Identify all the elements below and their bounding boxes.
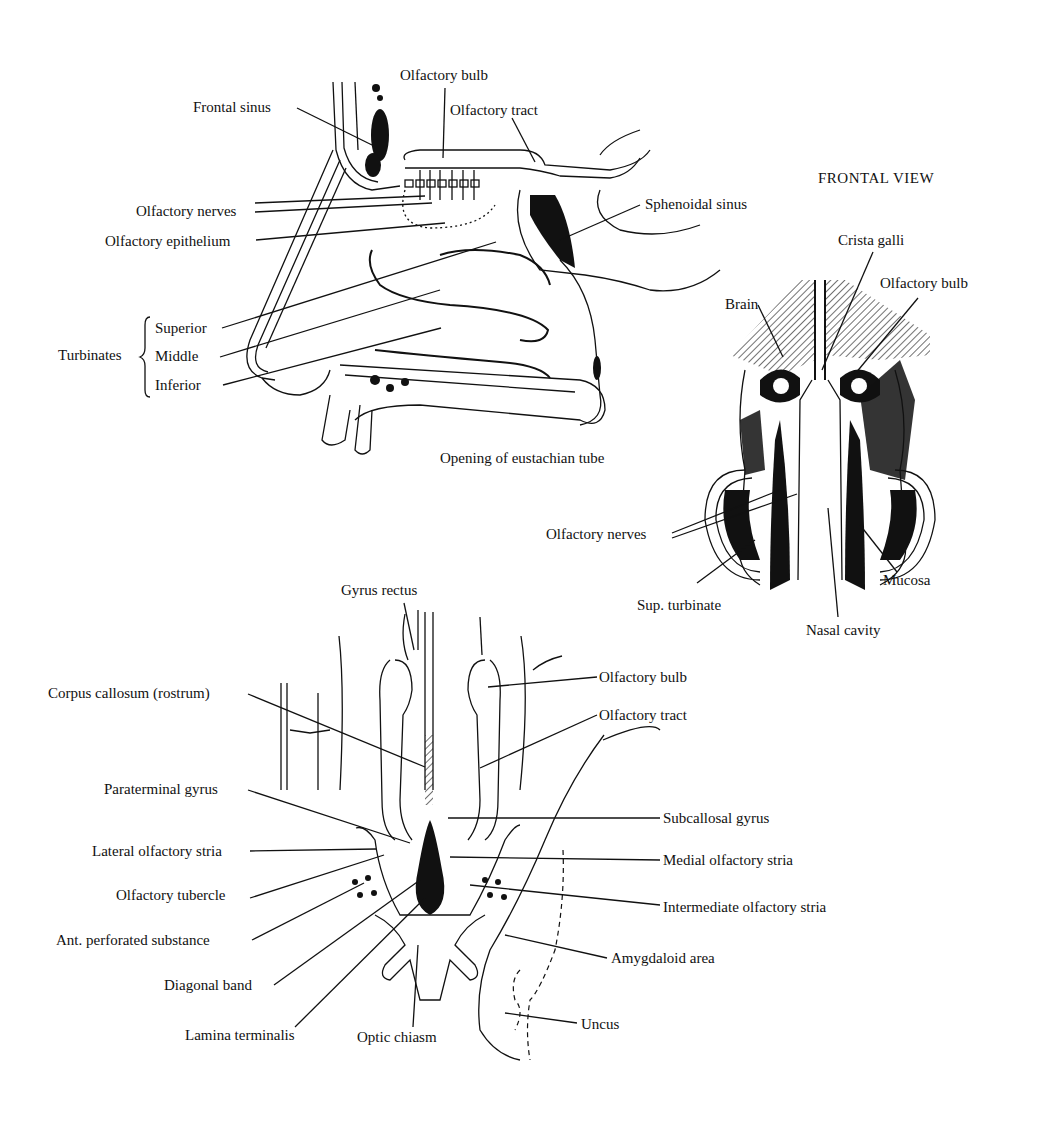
label-mucosa: Mucosa [883,573,931,588]
label-superior-turbinate: Superior [155,321,207,336]
label-ant-perforated-substance: Ant. perforated substance [56,933,210,948]
frontal-nasal-drawing [705,280,935,590]
label-sup-turbinate: Sup. turbinate [637,598,721,613]
label-nasal-cavity: Nasal cavity [806,623,881,638]
label-amygdaloid-area: Amygdaloid area [611,951,715,966]
label-lateral-olfactory-stria: Lateral olfactory stria [92,844,222,859]
label-frontal-sinus: Frontal sinus [193,100,271,115]
label-uncus: Uncus [581,1017,619,1032]
label-olfactory-tract: Olfactory tract [450,103,538,118]
label-paraterminal-gyrus: Paraterminal gyrus [104,782,218,797]
label-lamina-terminalis: Lamina terminalis [185,1028,295,1043]
label-brain: Brain [725,297,758,312]
label-turbinates: Turbinates [58,348,122,363]
sagittal-nasal-drawing [247,82,720,454]
label-frontal-olfactory-bulb: Olfactory bulb [880,276,968,291]
label-medial-olfactory-stria: Medial olfactory stria [663,853,793,868]
label-sphenoidal-sinus: Sphenoidal sinus [645,197,747,212]
label-corpus-callosum-rostrum: Corpus callosum (rostrum) [48,686,210,701]
label-olfactory-bulb: Olfactory bulb [400,68,488,83]
label-diagonal-band: Diagonal band [164,978,252,993]
label-crista-galli: Crista galli [838,233,904,248]
label-intermediate-olfactory-stria: Intermediate olfactory stria [663,900,826,915]
label-gyrus-rectus: Gyrus rectus [341,583,417,598]
label-inferior-turbinate: Inferior [155,378,201,393]
label-eustachian-tube-opening: Opening of eustachian tube [440,451,605,466]
label-olfactory-tubercle: Olfactory tubercle [116,888,226,903]
label-olfactory-nerves: Olfactory nerves [136,204,236,219]
frontal-view-title: FRONTAL VIEW [818,170,934,187]
label-basal-olfactory-tract: Olfactory tract [599,708,687,723]
label-middle-turbinate: Middle [155,349,198,364]
label-subcallosal-gyrus: Subcallosal gyrus [663,811,769,826]
label-basal-olfactory-bulb: Olfactory bulb [599,670,687,685]
label-optic-chiasm: Optic chiasm [357,1030,437,1045]
label-olfactory-epithelium: Olfactory epithelium [105,234,230,249]
label-frontal-olfactory-nerves: Olfactory nerves [546,527,646,542]
